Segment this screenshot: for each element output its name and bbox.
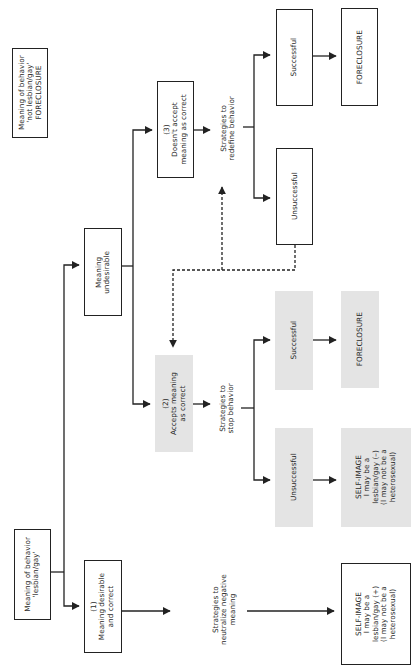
node-text: undesirable [103, 251, 111, 294]
node-stop-unsuccessful: Unsuccessful [275, 428, 313, 527]
node-text: Unsuccessful [290, 454, 298, 502]
node-text: Unsuccessful [290, 173, 298, 221]
label-strategies-redefine: Strategies to redefine behavior [212, 90, 244, 166]
node-self-image-positive: SELF-IMAGE I may be a lesbian/gay (+) (I… [341, 563, 411, 665]
node-text: FORECLOSURE [356, 313, 364, 367]
node-text: FORECLOSURE [355, 30, 363, 84]
node-stop-foreclosure: FORECLOSURE [341, 291, 379, 388]
node-text: stop behavior [227, 383, 235, 433]
node-redefine-unsuccessful: Unsuccessful [276, 148, 313, 245]
node-text: and correct [107, 573, 115, 640]
node-meaning-undesirable: Meaning undesirable [84, 228, 122, 316]
node-text: FORECLOSURE [34, 56, 42, 131]
label-strategies-stop: Strategies to stop behavior [212, 378, 242, 438]
node-text: Successful [290, 38, 298, 77]
node-self-image-negative: SELF-IMAGE I may be a lesbian/gay (–) (I… [341, 428, 411, 527]
node-accepts-meaning: (2) Accepts meaning as correct [155, 355, 193, 452]
node-meaning-desirable: (1) Meaning desirable and correct [84, 560, 122, 653]
node-doesnt-accept: (3) Doesn't accept meaning as correct [157, 81, 194, 178]
node-text: meaning as correct [180, 94, 188, 164]
node-not-lesbian-gay-foreclosure: Meaning of behavior 'not lesbian/gay' FO… [12, 48, 48, 138]
node-text: meaning [228, 575, 236, 646]
node-redefine-successful: Successful [276, 9, 313, 106]
node-stop-successful: Successful [275, 291, 313, 390]
node-text: heterosexual) [389, 586, 397, 642]
node-redefine-foreclosure: FORECLOSURE [341, 8, 378, 106]
node-text: heterosexual) [389, 450, 397, 506]
label-strategies-neutralize: Strategies to neutralize negative meanin… [204, 568, 244, 652]
node-text: 'lesbian/gay' [33, 537, 41, 612]
node-text: Successful [290, 321, 298, 360]
node-meaning-lesbian-gay: Meaning of behavior 'lesbian/gay' [14, 529, 51, 620]
node-text: as correct [178, 372, 186, 435]
node-text: redefine behavior [228, 96, 236, 161]
